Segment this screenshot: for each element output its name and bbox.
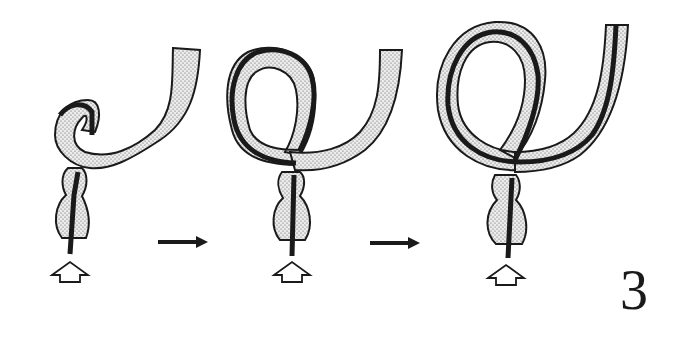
stage-3-panel xyxy=(437,22,628,285)
up-arrow-icon xyxy=(274,262,310,282)
up-arrow-icon xyxy=(52,262,88,282)
arrow-right-icon xyxy=(370,237,420,249)
figure-number: 3 xyxy=(620,262,648,318)
arrow-right-icon xyxy=(158,236,208,248)
colon-segment xyxy=(55,48,200,168)
stage-1-panel xyxy=(52,48,200,282)
colon-loop xyxy=(437,22,545,170)
stage-2-panel xyxy=(227,48,402,282)
up-arrow-icon xyxy=(488,265,524,285)
colon-loop-diagram xyxy=(0,0,685,342)
